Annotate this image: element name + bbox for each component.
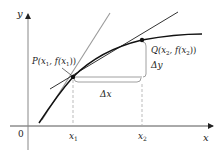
delta-y-label: Δy [150, 60, 163, 70]
y-axis-label: y [16, 8, 23, 19]
x2-tick-label: x2 [138, 131, 147, 142]
point-q-label: Q(x2, f(x2)) [151, 45, 196, 56]
point-p [71, 75, 75, 79]
delta-x-label: Δx [99, 89, 112, 99]
point-p-label: P(x1, f(x1)) [31, 56, 76, 67]
p-pointer-arrow [62, 68, 71, 75]
x-axis-label: x [203, 132, 209, 143]
x1-tick-label: x1 [69, 131, 78, 142]
diagram-canvas: y x 0 x1 x2 P(x1, f(x1)) Q(x2, f(x2)) Δy… [0, 0, 219, 153]
delta-x-bracket [74, 78, 141, 82]
point-q [140, 38, 144, 42]
origin-label: 0 [18, 129, 24, 139]
delta-y-bracket [143, 42, 146, 77]
